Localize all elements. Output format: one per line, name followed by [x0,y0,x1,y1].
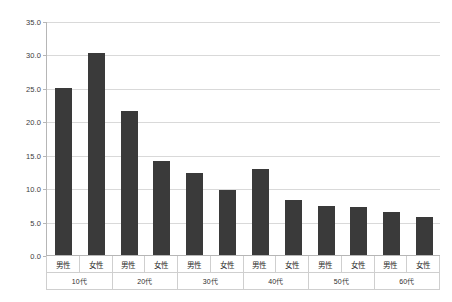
gender-label-row: 男性女性男性女性男性女性男性女性男性女性男性女性 [46,256,440,273]
gender-label-cell: 男性 [46,256,80,273]
plot-area [46,22,440,256]
gender-label-cell: 男性 [375,256,408,273]
gender-label-cell: 女性 [80,256,113,273]
gender-label-cell: 男性 [178,256,211,273]
gender-label-cell: 女性 [276,256,309,273]
y-axis-tick-label: 30.0 [3,51,41,60]
gender-label-cell: 女性 [211,256,244,273]
bars-layer [47,22,440,255]
age-group-label-cell: 20代 [113,273,179,290]
bar [186,173,203,255]
gender-label-cell: 女性 [407,256,440,273]
bar [55,88,72,255]
y-axis-tick-label: 15.0 [3,151,41,160]
bar [350,207,367,255]
bar [88,53,105,255]
y-axis-tick-label: 25.0 [3,84,41,93]
bar [252,169,269,255]
category-label-table: 男性女性男性女性男性女性男性女性男性女性男性女性 10代20代30代40代50代… [46,256,440,290]
bar [219,190,236,255]
gender-label-cell: 女性 [342,256,375,273]
bar [318,206,335,255]
gender-label-cell: 男性 [309,256,342,273]
age-group-label-cell: 10代 [46,273,113,290]
clipped-footer-text [0,292,452,302]
bar [383,212,400,255]
bar [121,111,138,255]
age-group-label-cell: 40代 [244,273,310,290]
y-axis-tick-label: 20.0 [3,118,41,127]
gender-label-cell: 男性 [113,256,146,273]
age-group-label-row: 10代20代30代40代50代60代 [46,273,440,290]
bar [153,161,170,255]
bar [416,217,433,255]
gender-label-cell: 女性 [145,256,178,273]
bar [285,200,302,255]
y-axis-tick-label: 0.0 [3,252,41,261]
y-axis-tick-label: 10.0 [3,185,41,194]
y-axis-tick-label: 35.0 [3,18,41,27]
bar-chart: 0.05.010.015.020.025.030.035.0 男性女性男性女性男… [0,0,452,302]
gender-label-cell: 男性 [244,256,277,273]
age-group-label-cell: 30代 [178,273,244,290]
y-axis-tick-label: 5.0 [3,218,41,227]
age-group-label-cell: 50代 [309,273,375,290]
age-group-label-cell: 60代 [375,273,441,290]
